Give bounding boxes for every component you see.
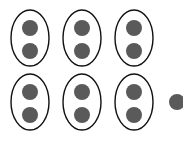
- grouping-diagram: [0, 0, 183, 143]
- dot-group-6: [115, 74, 153, 130]
- dot: [126, 43, 142, 59]
- dot: [74, 107, 90, 123]
- dot: [74, 20, 90, 36]
- dot: [126, 20, 142, 36]
- dot-group-5: [63, 74, 101, 130]
- dot-group-2: [63, 10, 101, 66]
- dot: [126, 107, 142, 123]
- dot: [22, 84, 38, 100]
- dot: [74, 43, 90, 59]
- dot: [74, 84, 90, 100]
- dot: [126, 84, 142, 100]
- remainder-dot: [169, 94, 183, 110]
- dot-group-3: [115, 10, 153, 66]
- dot: [22, 107, 38, 123]
- dot-group-1: [11, 10, 49, 66]
- dot: [22, 20, 38, 36]
- dot-group-4: [11, 74, 49, 130]
- dot: [22, 43, 38, 59]
